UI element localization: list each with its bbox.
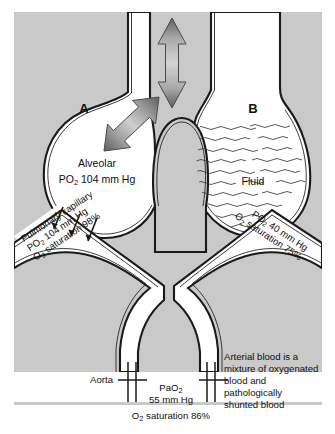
fluid-label: Fluid [242, 175, 265, 187]
alveolar-shunt-diagram: A B Alveolar PO2 104 mm Hg Fluid Pulmona… [0, 0, 335, 434]
annotation-line4: pathologically [224, 387, 282, 398]
aorta-label: Aorta [90, 374, 114, 385]
pao2-value: 55 mm Hg [149, 394, 193, 405]
annotation-line1: Arterial blood is a [224, 351, 299, 362]
alveolar-label-line1: Alveolar [78, 157, 116, 169]
annotation-line3: blood and [224, 375, 266, 386]
alveolar-po2-prefix: P [59, 173, 66, 185]
alveolar-po2-o: O [66, 173, 74, 185]
alveolus-b-letter: B [248, 101, 257, 116]
annotation-line2: mixture of oxygenated [224, 363, 318, 374]
annotation-line5: shunted blood [224, 399, 284, 410]
alveolus-a-letter: A [79, 101, 89, 116]
figure-container: A B Alveolar PO2 104 mm Hg Fluid Pulmona… [0, 0, 335, 434]
alveolar-po2-value: 104 mm Hg [78, 173, 135, 185]
